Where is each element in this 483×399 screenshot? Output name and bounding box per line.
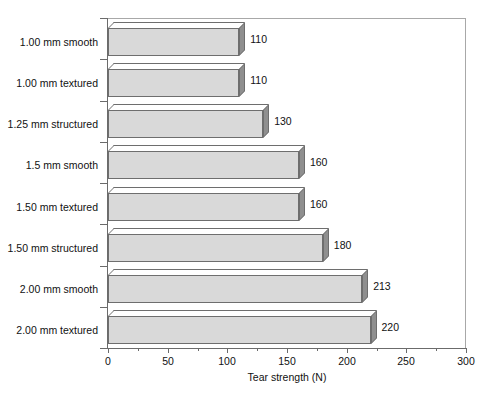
x-axis-tick-minor — [138, 348, 139, 351]
y-axis-tick — [100, 142, 107, 143]
y-axis-tick — [100, 348, 107, 349]
x-axis-tick-label: 200 — [327, 355, 367, 367]
x-axis-tick-minor — [198, 348, 199, 351]
y-axis-category-label: 1.50 mm structured — [8, 242, 98, 254]
x-axis-tick-label: 150 — [267, 355, 307, 367]
bar-value-label: 213 — [373, 280, 391, 292]
x-axis-tick-major — [168, 348, 169, 353]
bar: 160 — [108, 145, 299, 179]
x-axis-tick-label: 50 — [148, 355, 188, 367]
bar: 130 — [108, 104, 263, 138]
y-axis-category-label: 1.25 mm structured — [8, 118, 98, 130]
bar-value-label: 220 — [382, 321, 400, 333]
bar-value-label: 110 — [250, 74, 267, 86]
bar-chart-figure: 1.00 mm smooth1.00 mm textured1.25 mm st… — [0, 0, 483, 399]
bar-value-label: 130 — [274, 115, 292, 127]
x-axis-tick-minor — [257, 348, 258, 351]
x-axis-tick-minor — [317, 348, 318, 351]
x-axis-tick-major — [108, 348, 109, 353]
bar-side-face — [362, 269, 368, 303]
bar-side-face — [239, 22, 245, 56]
bar-front-face — [108, 234, 323, 262]
y-axis-category-label: 1.50 mm textured — [16, 201, 98, 213]
y-axis-tick — [100, 183, 107, 184]
bar-value-label: 160 — [310, 198, 328, 210]
x-axis-tick-label: 0 — [88, 355, 128, 367]
x-axis-tick-major — [406, 348, 407, 353]
bar-value-label: 160 — [310, 156, 328, 168]
bar-side-face — [371, 310, 377, 344]
y-axis-tick — [100, 307, 107, 308]
x-axis-tick-major — [347, 348, 348, 353]
plot-frame-top — [108, 18, 466, 19]
bar: 180 — [108, 228, 323, 262]
x-axis-title: Tear strength (N) — [108, 371, 466, 383]
y-axis-category-label: 2.00 mm textured — [16, 324, 98, 336]
bar-side-face — [299, 187, 305, 221]
x-axis-tick-major — [287, 348, 288, 353]
y-axis-tick — [100, 59, 107, 60]
bar-front-face — [108, 110, 263, 138]
plot-frame-right — [465, 18, 466, 349]
bar: 220 — [108, 310, 371, 344]
x-axis-tick-label: 250 — [386, 355, 426, 367]
x-axis-tick-minor — [377, 348, 378, 351]
bar: 110 — [108, 22, 239, 56]
y-axis-category-label: 2.00 mm smooth — [20, 283, 98, 295]
y-axis-tick — [100, 224, 107, 225]
y-axis-category-label: 1.00 mm smooth — [20, 36, 98, 48]
y-axis-tick — [100, 18, 107, 19]
bar-value-label: 110 — [250, 33, 267, 45]
x-axis-tick-label: 300 — [446, 355, 483, 367]
bar-side-face — [239, 63, 245, 97]
x-axis-tick-minor — [436, 348, 437, 351]
y-axis-category-label: 1.00 mm textured — [16, 77, 98, 89]
bar-front-face — [108, 69, 239, 97]
y-axis-category-label: 1.5 mm smooth — [26, 159, 98, 171]
y-axis-tick — [100, 266, 107, 267]
y-axis-tick — [100, 101, 107, 102]
x-axis-tick-major — [466, 348, 467, 353]
bar: 213 — [108, 269, 362, 303]
bar-front-face — [108, 151, 299, 179]
bar: 160 — [108, 187, 299, 221]
bar: 110 — [108, 63, 239, 97]
bar-side-face — [299, 145, 305, 179]
bar-front-face — [108, 28, 239, 56]
bar-side-face — [323, 228, 329, 262]
x-axis-tick-major — [227, 348, 228, 353]
bar-value-label: 180 — [334, 239, 352, 251]
bar-front-face — [108, 193, 299, 221]
x-axis-tick-label: 100 — [207, 355, 247, 367]
bar-side-face — [263, 104, 269, 138]
bar-front-face — [108, 275, 362, 303]
bar-front-face — [108, 316, 371, 344]
